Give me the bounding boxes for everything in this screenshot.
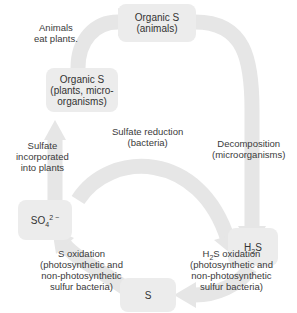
node-label: (animals) xyxy=(135,23,179,34)
arrow-animals-eat-plants xyxy=(78,22,118,68)
node-organic-s-plants: Organic S (plants, micro- organisms) xyxy=(46,68,118,112)
node-organic-s-animals: Organic S (animals) xyxy=(118,4,196,42)
node-label: S xyxy=(145,290,152,301)
sulfur-cycle-diagram: Organic S (animals) Organic S (plants, m… xyxy=(0,0,297,313)
node-label: (plants, micro- xyxy=(50,85,113,96)
label-s-oxidation: S oxidation (photosynthetic and non-phot… xyxy=(40,248,123,292)
node-label: Organic S xyxy=(135,12,179,23)
node-label: SO42 − xyxy=(31,215,59,226)
node-sulfate: SO42 − xyxy=(18,200,72,240)
label-h2s-oxidation: H2S oxidation (photosynthetic and non-ph… xyxy=(190,248,273,292)
arrow-sulfate-reduction xyxy=(78,166,228,240)
label-sulfate-incorporated: Sulfate incorporated into plants xyxy=(16,140,69,173)
arrowhead-to-plants xyxy=(44,120,66,140)
node-label: organisms) xyxy=(50,96,113,107)
label-animals-eat-plants: Animals eat plants. xyxy=(34,22,78,44)
node-sulfur: S xyxy=(120,278,176,312)
label-decomposition: Decomposition (microorganisms) xyxy=(212,138,285,160)
node-label: Organic S xyxy=(50,74,113,85)
label-sulfate-reduction: Sulfate reduction (bacteria) xyxy=(112,126,183,148)
